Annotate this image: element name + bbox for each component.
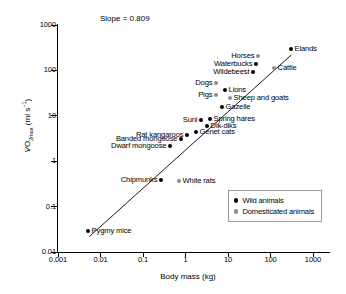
legend-label: Domesticated animals: [242, 208, 314, 216]
y-tick-label-100: 100: [16, 66, 56, 74]
x-tick-label-1: 1: [163, 256, 209, 264]
data-point: [177, 179, 181, 183]
data-point: [214, 81, 218, 85]
data-point-label: Sheep and goats: [234, 94, 289, 102]
x-tick-label-0.001: 0.001: [35, 256, 81, 264]
figure-scatter-vo2max-vs-body-mass: 0.010.11101001000 0.0010.010.11101001000…: [0, 0, 346, 294]
legend-marker-icon: [234, 198, 238, 202]
legend-item: Wild animals: [234, 195, 314, 206]
data-point-label: Pygmy mice: [92, 227, 132, 235]
data-point: [185, 133, 189, 137]
x-tick-label-1000: 1000: [290, 256, 336, 264]
data-point: [214, 93, 218, 97]
data-point-label: Cattle: [278, 64, 297, 72]
x-tick-label-10: 10: [205, 256, 251, 264]
y-tick-label-1000: 1000: [16, 21, 56, 29]
data-point-label: Spring hares: [214, 115, 255, 123]
data-point-label: Rat kangaroos: [136, 131, 183, 139]
x-tick-label-0.01: 0.01: [78, 256, 124, 264]
data-point: [251, 70, 255, 74]
data-point: [220, 105, 224, 109]
data-point-label: White rats: [183, 177, 216, 185]
plot-area: 0.010.11101001000 0.0010.010.11101001000…: [0, 0, 346, 294]
data-point-label: Dik-diks: [211, 122, 237, 130]
data-point-label: Wildebeest: [213, 68, 249, 76]
data-point-label: Waterbucks: [214, 60, 252, 68]
data-point: [199, 118, 203, 122]
x-tick-label-0.1: 0.1: [120, 256, 166, 264]
legend-label: Wild animals: [242, 197, 283, 205]
x-tick-label-100: 100: [248, 256, 294, 264]
data-point-label: Elands: [295, 45, 317, 53]
legend: Wild animalsDomesticated animals: [228, 190, 322, 222]
data-point: [86, 229, 90, 233]
data-point: [194, 130, 198, 134]
data-point: [256, 54, 260, 58]
data-point-label: Dwarf mongoose: [111, 142, 166, 150]
y-axis-title: V̇O2max (ml s−1): [20, 82, 35, 170]
data-point-label: Pigs: [198, 91, 212, 99]
data-point: [228, 96, 232, 100]
data-point-label: Horses: [231, 52, 254, 60]
data-point-label: Chipmunks: [121, 176, 158, 184]
y-axis-line: [57, 24, 58, 253]
slope-annotation: Slope = 0.809: [100, 14, 150, 23]
legend-marker-icon: [234, 209, 238, 213]
x-axis-line: [57, 252, 330, 253]
y-tick-label-0.1: 0.1: [16, 203, 56, 211]
data-point-label: Gazelle: [226, 103, 251, 111]
data-point-label: Lions: [229, 86, 246, 94]
x-axis-title: Body mass (kg): [108, 272, 268, 281]
data-point: [289, 47, 293, 51]
legend-item: Domesticated animals: [234, 206, 314, 217]
data-point: [168, 144, 172, 148]
data-point: [223, 88, 227, 92]
data-point: [272, 66, 276, 70]
data-point: [159, 178, 163, 182]
data-point-label: Dogs: [195, 79, 212, 87]
data-point-label: Suni: [183, 116, 198, 124]
data-point: [254, 62, 258, 66]
